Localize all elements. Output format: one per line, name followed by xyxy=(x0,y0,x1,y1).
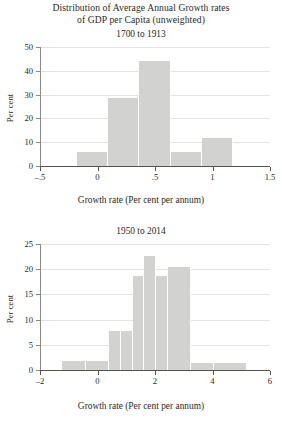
chart-1-y-tick-label: 20 xyxy=(24,113,33,123)
chart-1-plot-wrap: Per cent 01020304050 –.50.511.5 xyxy=(0,43,282,188)
chart-1-x-axis-title: Growth rate (Per cent per annum) xyxy=(0,195,282,205)
chart-1-bar xyxy=(202,138,233,166)
chart-2-x-tick-label: 2 xyxy=(153,376,157,386)
chart-2-x-tick xyxy=(98,371,99,375)
chart-1-y-tick-label: 10 xyxy=(24,137,33,147)
chart-2-y-axis-line xyxy=(40,244,41,370)
chart-2-x-tick xyxy=(155,371,156,375)
chart-2-y-tick-label: 20 xyxy=(24,264,33,274)
chart-2-bar xyxy=(121,331,133,370)
chart-2-x-tick xyxy=(270,371,271,375)
chart-panel-1950-2014: 1950 to 2014 Per cent 0510152025 –20246 … xyxy=(0,225,282,432)
chart-1-y-tick-label: 0 xyxy=(29,161,33,171)
chart-2-y-tick-label: 15 xyxy=(24,289,33,299)
chart-2-y-axis-title: Per cent xyxy=(5,281,15,337)
chart-1-y-tick-label: 50 xyxy=(24,42,33,52)
chart-1-plot-area: 01020304050 xyxy=(40,47,270,166)
chart-1-bar xyxy=(171,152,202,166)
chart-2-y-tick-label: 25 xyxy=(24,239,33,249)
chart-2-bar xyxy=(168,267,191,370)
chart-2-x-tick xyxy=(40,371,41,375)
chart-2-bar xyxy=(133,276,145,370)
chart-2-x-tick xyxy=(213,371,214,375)
chart-2-bar xyxy=(214,363,247,370)
chart-2-y-tick-label: 5 xyxy=(29,340,33,350)
chart-2-y-tick-label: 10 xyxy=(24,315,33,325)
chart-2-bar xyxy=(109,331,121,370)
chart-1-x-tick xyxy=(270,167,271,171)
chart-2-x-tick-label: 4 xyxy=(210,376,214,386)
figure-title-line-1: Distribution of Average Annual Growth ra… xyxy=(0,2,282,14)
chart-2-bar xyxy=(144,256,156,370)
chart-2-bar xyxy=(191,363,214,370)
chart-2-bar xyxy=(156,276,168,370)
chart-2-x-tick-label: 0 xyxy=(95,376,99,386)
chart-1-x-tick-label: 0 xyxy=(95,172,99,182)
chart-1-x-tick xyxy=(155,167,156,171)
chart-1-y-axis-title: Per cent xyxy=(5,80,15,136)
chart-2-x-axis-title: Growth rate (Per cent per annum) xyxy=(0,401,282,411)
chart-2-y-tick-label: 0 xyxy=(29,365,33,375)
chart-2-plot-area: 0510152025 xyxy=(40,244,270,370)
chart-2-x-tick-label: 6 xyxy=(268,376,272,386)
chart-panel-1700-1913: 1700 to 1913 Per cent 01020304050 –.50.5… xyxy=(0,28,282,220)
chart-2-bar xyxy=(86,361,109,370)
figure-title-line-2: of GDP per Capita (unweighted) xyxy=(0,14,282,26)
chart-1-x-tick-label: –.5 xyxy=(35,172,46,182)
chart-1-x-tick xyxy=(213,167,214,171)
chart-1-bar xyxy=(108,98,139,166)
chart-1-subtitle: 1700 to 1913 xyxy=(0,28,282,40)
chart-1-x-tick-label: .5 xyxy=(152,172,158,182)
chart-1-bar xyxy=(139,61,170,166)
chart-1-x-tick xyxy=(40,167,41,171)
chart-1-x-tick-label: 1 xyxy=(210,172,214,182)
chart-1-x-tick xyxy=(98,167,99,171)
chart-2-subtitle: 1950 to 2014 xyxy=(0,225,282,237)
chart-1-bar xyxy=(77,152,108,166)
chart-1-x-tick-label: 1.5 xyxy=(265,172,276,182)
figure-container: Distribution of Average Annual Growth ra… xyxy=(0,0,282,432)
chart-1-gridline xyxy=(40,47,270,48)
chart-1-y-tick-label: 40 xyxy=(24,66,33,76)
chart-1-y-axis-line xyxy=(40,47,41,166)
chart-2-gridline xyxy=(40,244,270,245)
chart-1-y-tick-label: 30 xyxy=(24,90,33,100)
figure-title: Distribution of Average Annual Growth ra… xyxy=(0,2,282,27)
chart-2-plot-wrap: Per cent 0510152025 –20246 xyxy=(0,240,282,392)
chart-2-bar xyxy=(62,361,85,370)
chart-2-x-tick-label: –2 xyxy=(36,376,45,386)
